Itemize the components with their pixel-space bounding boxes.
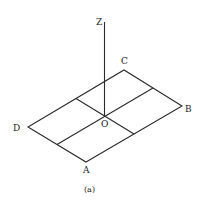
z-axis-label: Z: [96, 17, 102, 27]
vertex-label-a: A: [82, 165, 90, 175]
diagram-canvas: Z C B D O A (a): [0, 0, 200, 208]
vertex-label-c: C: [121, 56, 128, 66]
origin-label-o: O: [101, 119, 108, 129]
vertex-label-d: D: [13, 123, 20, 133]
figure-caption: (a): [84, 185, 95, 194]
vertex-label-b: B: [185, 104, 192, 114]
